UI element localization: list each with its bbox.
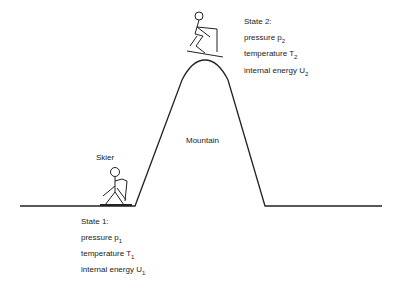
state1-title: State 1:	[81, 217, 109, 226]
state2-pressure-sub: 2	[282, 38, 285, 44]
state1-temperature-text: temperature T	[81, 249, 131, 258]
mountain-label: Mountain	[186, 136, 219, 145]
mountain-outline	[20, 60, 382, 206]
state1-temperature: temperature T1	[81, 249, 134, 260]
state1-pressure-sub: 1	[119, 238, 122, 244]
state2-energy-sub: 2	[305, 71, 308, 77]
state2-temperature-sub: 2	[294, 54, 297, 60]
state1-pressure-text: pressure p	[81, 233, 119, 242]
state2-energy: internal energy U2	[244, 66, 308, 77]
state2-pressure: pressure p2	[244, 33, 285, 44]
skier-bottom-figure	[100, 168, 132, 206]
state2-title: State 2:	[244, 17, 272, 26]
state1-temperature-sub: 1	[131, 254, 134, 260]
state2-temperature: temperature T2	[244, 49, 297, 60]
state2-temperature-text: temperature T	[244, 49, 294, 58]
state1-energy-sub: 1	[142, 270, 145, 276]
skier-bottom-head	[111, 168, 120, 177]
state1-energy-text: internal energy U	[81, 265, 142, 274]
skier-top-skis	[187, 51, 223, 57]
state2-energy-text: internal energy U	[244, 66, 305, 75]
skier-top-head	[195, 12, 203, 20]
skier-label: Skier	[96, 153, 114, 162]
state1-energy: internal energy U1	[81, 265, 145, 276]
state2-pressure-text: pressure p	[244, 33, 282, 42]
state1-pressure: pressure p1	[81, 233, 122, 244]
skier-top-figure	[187, 12, 223, 57]
